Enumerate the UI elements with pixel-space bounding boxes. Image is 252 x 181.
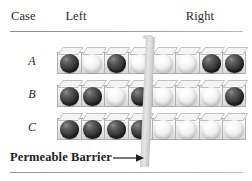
bead-cell[interactable] [175, 52, 199, 74]
bead-cell-lid [82, 80, 106, 87]
case-label-c: C [24, 120, 40, 135]
light-bead[interactable] [83, 54, 102, 73]
bead-cell-lid [153, 113, 177, 120]
case-label-b: B [24, 87, 40, 102]
light-bead[interactable] [178, 120, 197, 139]
bead-cell[interactable] [104, 118, 128, 140]
column-header-left: Left [0, 9, 152, 24]
bead-cell[interactable] [104, 52, 128, 74]
bead-cell[interactable] [81, 118, 105, 140]
bead-cell[interactable] [152, 85, 176, 107]
case-label-a: A [24, 54, 40, 69]
bead-cell-lid [105, 47, 129, 54]
light-bead[interactable] [107, 87, 126, 106]
bead-cell-lid [82, 47, 106, 54]
dark-bead[interactable] [225, 54, 244, 73]
bead-cell[interactable] [104, 85, 128, 107]
bead-cell-lid [153, 47, 177, 54]
bead-cell[interactable] [222, 85, 246, 107]
dark-bead[interactable] [83, 120, 102, 139]
bead-cell-lid [58, 47, 82, 54]
bead-cell[interactable] [152, 52, 176, 74]
bead-tray-row [57, 112, 246, 140]
bead-cell-lid [176, 47, 200, 54]
light-bead[interactable] [154, 120, 173, 139]
light-bead[interactable] [154, 54, 173, 73]
bead-cell[interactable] [81, 85, 105, 107]
bead-cell[interactable] [57, 52, 81, 74]
bead-cell-lid [153, 80, 177, 87]
bead-cell-lid [58, 113, 82, 120]
right-arrow-icon [112, 151, 146, 165]
permeable-barrier-figure: Case Left Right ABC Permeable Barrier [0, 0, 252, 181]
bead-cell-lid [223, 80, 247, 87]
dark-bead[interactable] [60, 54, 79, 73]
dark-bead[interactable] [60, 87, 79, 106]
bead-cell-lid [223, 113, 247, 120]
bead-cell[interactable] [222, 52, 246, 74]
bead-cell-lid [176, 113, 200, 120]
light-bead[interactable] [178, 54, 197, 73]
bead-cell[interactable] [199, 118, 223, 140]
bead-cell-lid [82, 113, 106, 120]
bead-cell[interactable] [81, 52, 105, 74]
light-bead[interactable] [178, 87, 197, 106]
dark-bead[interactable] [83, 87, 102, 106]
bead-cell-lid [105, 113, 129, 120]
bead-cell[interactable] [57, 85, 81, 107]
dark-bead[interactable] [225, 87, 244, 106]
bead-cell[interactable] [199, 52, 223, 74]
dark-bead[interactable] [60, 120, 79, 139]
bead-cell-lid [200, 47, 224, 54]
bead-tray-cells [57, 118, 246, 140]
bead-cell-lid [58, 80, 82, 87]
bead-cell[interactable] [175, 85, 199, 107]
bead-cell-lid [176, 80, 200, 87]
bead-cell[interactable] [175, 118, 199, 140]
bead-cell[interactable] [222, 118, 246, 140]
light-bead[interactable] [154, 87, 173, 106]
bead-cell[interactable] [57, 118, 81, 140]
header-divider-rule [10, 31, 243, 32]
bead-cell-lid [105, 80, 129, 87]
dark-bead[interactable] [202, 54, 221, 73]
footer-divider-rule [10, 172, 243, 173]
light-bead[interactable] [202, 120, 221, 139]
bead-cell[interactable] [199, 85, 223, 107]
column-header-right: Right [152, 9, 248, 24]
dark-bead[interactable] [107, 120, 126, 139]
dark-bead[interactable] [107, 54, 126, 73]
light-bead[interactable] [202, 87, 221, 106]
caption-label: Permeable Barrier [10, 150, 112, 165]
bead-cell[interactable] [152, 118, 176, 140]
bead-cell-lid [223, 47, 247, 54]
light-bead[interactable] [225, 120, 244, 139]
bead-cell-lid [200, 113, 224, 120]
bead-cell-lid [200, 80, 224, 87]
